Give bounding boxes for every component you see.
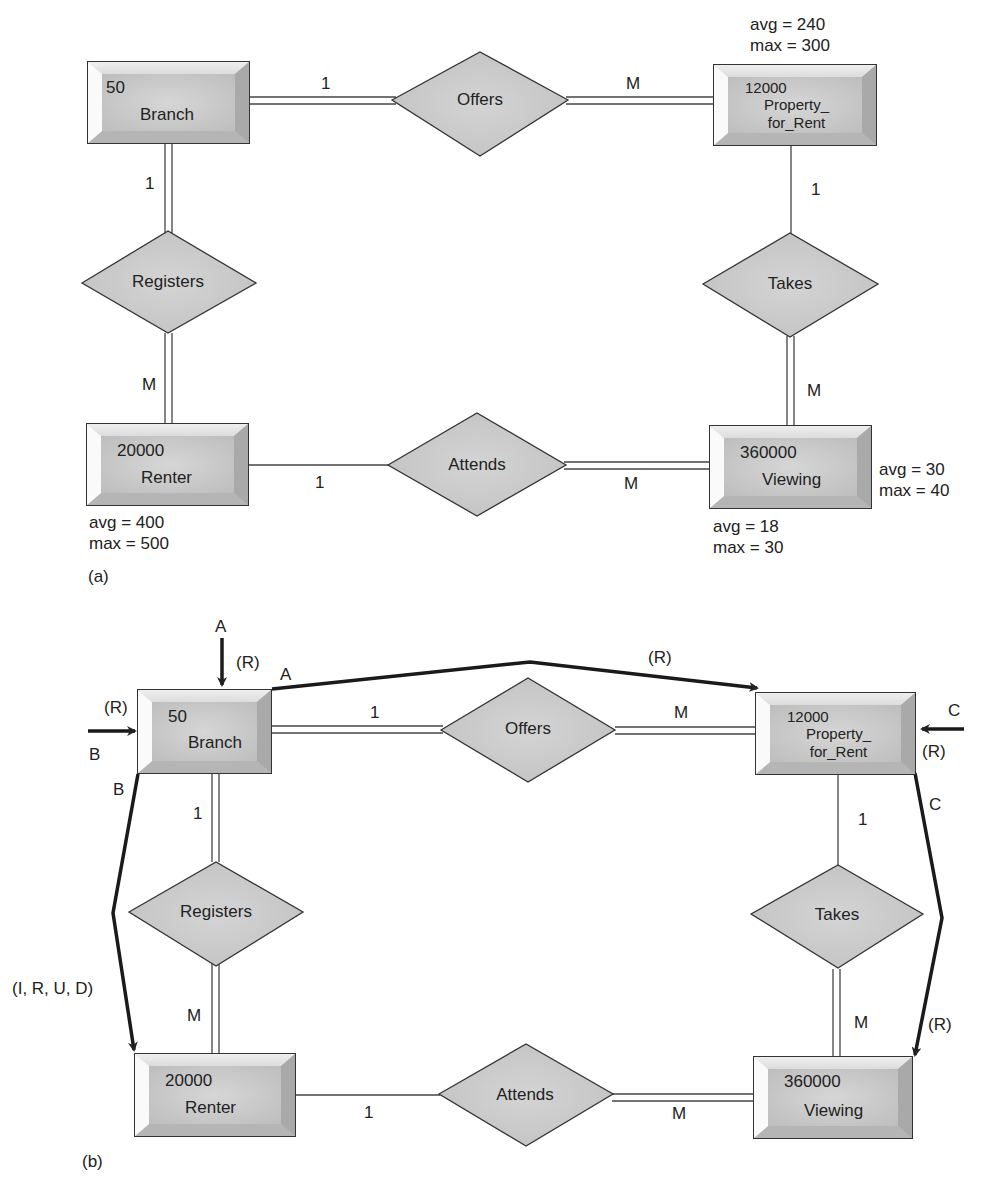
cardinality: 1 (193, 804, 202, 824)
entity-viewing-a: 360000 Viewing (709, 425, 872, 509)
transaction-c-path-op: (R) (928, 1015, 952, 1035)
entity-branch-b: 50 Branch (137, 689, 272, 774)
entity-count: 20000 (117, 441, 164, 461)
relationship-attends-b: Attends (485, 1085, 565, 1105)
entity-name: Branch (140, 106, 194, 124)
relationship-offers-b: Offers (488, 719, 568, 739)
cardinality: M (626, 74, 640, 94)
entity-name: Renter (185, 1099, 236, 1117)
annotation-viewing-right: avg = 30 max = 40 (879, 459, 949, 501)
entity-name: Renter (141, 469, 192, 487)
cardinality: M (807, 381, 821, 401)
transaction-b-corner: B (113, 780, 124, 800)
entity-name: Property_ for_Rent (764, 96, 829, 132)
cardinality: 1 (370, 703, 379, 723)
transaction-c-corner: C (929, 795, 941, 815)
entity-count: 12000 (745, 79, 787, 96)
cardinality: 1 (145, 174, 154, 194)
entity-renter-a: 20000 Renter (86, 423, 249, 506)
cardinality: 1 (858, 810, 867, 830)
cardinality: M (854, 1013, 868, 1033)
cardinality: 1 (321, 74, 330, 94)
entity-name: Property_ for_Rent (806, 725, 871, 761)
relationship-registers-b: Registers (168, 902, 264, 922)
entity-count: 360000 (784, 1072, 841, 1092)
cardinality: M (672, 1104, 686, 1124)
transaction-b-path-op: (I, R, U, D) (12, 979, 93, 999)
annotation-renter-occurrence: avg = 400 max = 500 (89, 512, 169, 554)
cardinality: M (624, 474, 638, 494)
path-a (272, 662, 757, 689)
entity-viewing-b: 360000 Viewing (753, 1056, 913, 1139)
entity-count: 50 (168, 707, 187, 727)
relationship-attends-a: Attends (437, 455, 517, 475)
transaction-a-path-op: (R) (648, 648, 672, 668)
annotation-property-occurrence: avg = 240 max = 300 (750, 14, 830, 56)
annotation-viewing-below: avg = 18 max = 30 (713, 516, 783, 558)
entity-property-b: 12000 Property_ for_Rent (755, 692, 916, 775)
entity-count: 12000 (787, 708, 829, 725)
cardinality: M (674, 703, 688, 723)
transaction-b-label: B (89, 745, 100, 765)
relationship-takes-a: Takes (750, 274, 830, 294)
relationship-registers-a: Registers (120, 272, 216, 292)
figure-label-a: (a) (88, 567, 109, 587)
relationship-takes-b: Takes (797, 905, 877, 925)
entity-name: Viewing (804, 1102, 863, 1120)
transaction-a-label: A (215, 617, 226, 637)
transaction-a-op: (R) (236, 653, 260, 673)
transaction-c-op: (R) (922, 742, 946, 762)
entity-branch-a: 50 Branch (87, 61, 250, 144)
entity-property-a: 12000 Property_ for_Rent (713, 64, 877, 146)
entity-name: Viewing (762, 471, 821, 489)
cardinality: 1 (315, 473, 324, 493)
cardinality: 1 (811, 180, 820, 200)
entity-renter-b: 20000 Renter (134, 1053, 296, 1137)
figure-label-b: (b) (82, 1152, 103, 1172)
entity-name: Branch (188, 734, 242, 752)
entity-count: 50 (106, 78, 125, 98)
transaction-b-op: (R) (104, 698, 128, 718)
transaction-c-label: C (948, 701, 960, 721)
entity-count: 20000 (165, 1071, 212, 1091)
transaction-a-corner: A (280, 665, 291, 685)
cardinality: M (142, 375, 156, 395)
cardinality: M (187, 1006, 201, 1026)
entity-count: 360000 (740, 443, 797, 463)
cardinality: 1 (364, 1103, 373, 1123)
relationship-offers-a: Offers (440, 90, 520, 110)
